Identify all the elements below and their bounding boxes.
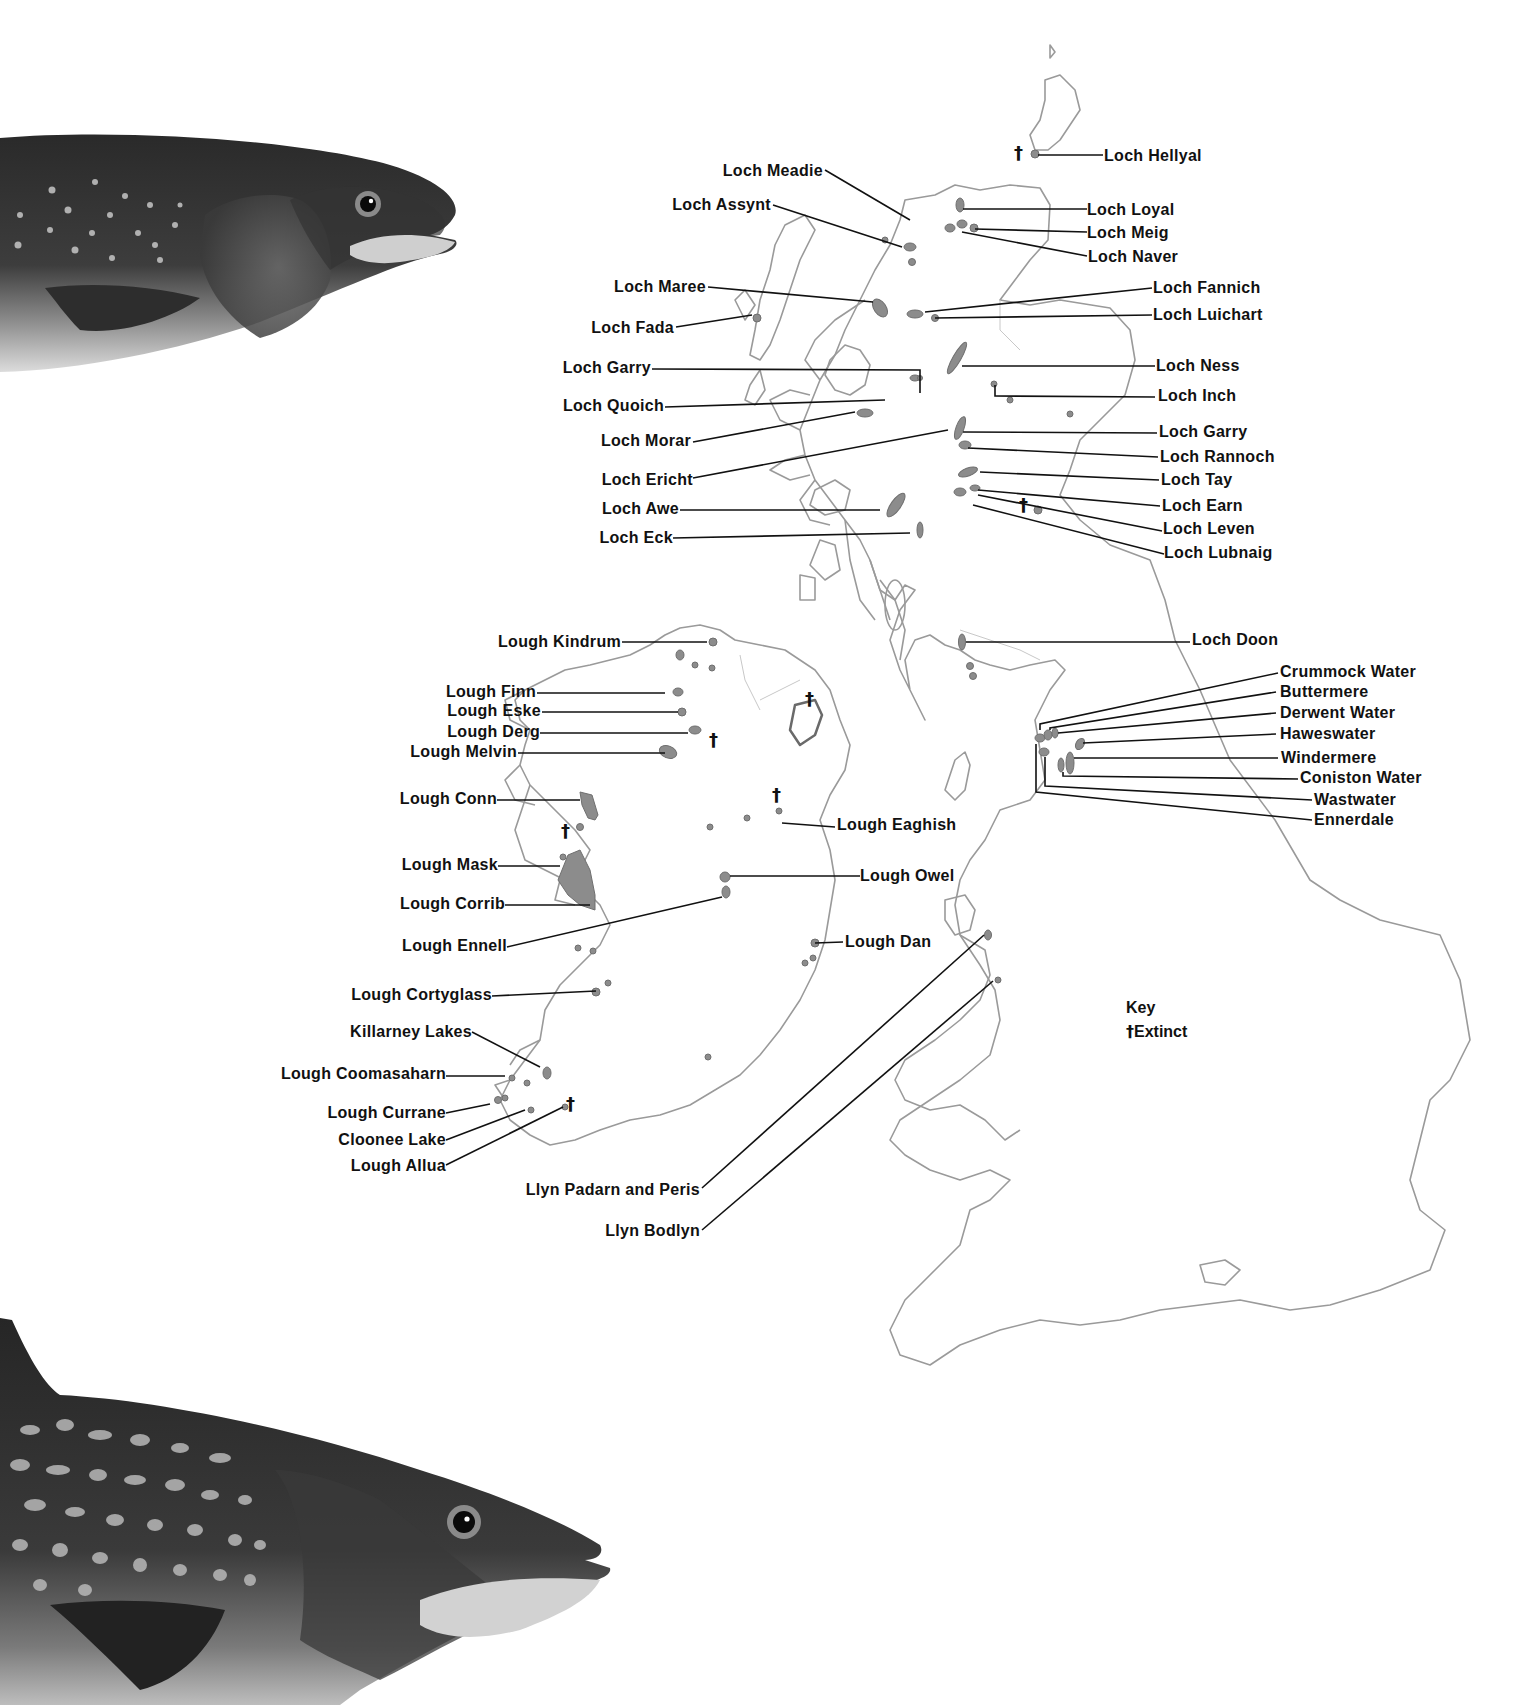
label-llyn-bodlyn: Llyn Bodlyn bbox=[605, 1222, 700, 1240]
label-loch-doon: Loch Doon bbox=[1192, 631, 1278, 649]
label-loch-garry-east: Loch Garry bbox=[1159, 423, 1247, 441]
label-lough-corrib: Lough Corrib bbox=[400, 895, 505, 913]
label-lough-mask: Lough Mask bbox=[402, 856, 498, 874]
extinct-marker: † bbox=[566, 1095, 575, 1113]
extinct-marker: † bbox=[1019, 496, 1028, 514]
label-llyn-padarn-and-peris: Llyn Padarn and Peris bbox=[526, 1181, 700, 1199]
label-haweswater: Haweswater bbox=[1280, 725, 1376, 743]
label-loch-quoich: Loch Quoich bbox=[563, 397, 664, 415]
label-loch-naver: Loch Naver bbox=[1088, 248, 1178, 266]
char-distribution-map-page: † † † † † † † Loch Hellyal Loch Loyal Lo… bbox=[0, 0, 1516, 1705]
label-lough-conn: Lough Conn bbox=[400, 790, 497, 808]
label-loch-fada: Loch Fada bbox=[591, 319, 674, 337]
label-loch-leven: Loch Leven bbox=[1163, 520, 1255, 538]
label-loch-lubnaig: Loch Lubnaig bbox=[1164, 544, 1272, 562]
british-isles-map bbox=[0, 0, 1516, 1705]
label-killarney-lakes: Killarney Lakes bbox=[350, 1023, 472, 1041]
label-loch-assynt: Loch Assynt bbox=[672, 196, 771, 214]
label-lough-allua: Lough Allua bbox=[351, 1157, 446, 1175]
label-loch-ericht: Loch Ericht bbox=[602, 471, 693, 489]
label-wastwater: Wastwater bbox=[1314, 791, 1396, 809]
key-extinct-row: †Extinct bbox=[1126, 1020, 1187, 1044]
label-loch-awe: Loch Awe bbox=[602, 500, 679, 518]
label-loch-fannich: Loch Fannich bbox=[1153, 279, 1261, 297]
extinct-marker: † bbox=[561, 822, 570, 840]
extinct-marker: † bbox=[772, 786, 781, 804]
label-cloonee-lake: Cloonee Lake bbox=[338, 1131, 446, 1149]
label-loch-luichart: Loch Luichart bbox=[1153, 306, 1263, 324]
label-loch-ness: Loch Ness bbox=[1156, 357, 1240, 375]
label-lough-kindrum: Lough Kindrum bbox=[498, 633, 621, 651]
label-lough-owel: Lough Owel bbox=[860, 867, 955, 885]
label-loch-eck: Loch Eck bbox=[599, 529, 673, 547]
label-windermere: Windermere bbox=[1281, 749, 1376, 767]
label-loch-garry-west: Loch Garry bbox=[563, 359, 651, 377]
label-lough-derg: Lough Derg bbox=[447, 723, 540, 741]
label-loch-inch: Loch Inch bbox=[1158, 387, 1236, 405]
label-lough-eaghish: Lough Eaghish bbox=[837, 816, 956, 834]
label-ennerdale: Ennerdale bbox=[1314, 811, 1394, 829]
label-lough-currane: Lough Currane bbox=[327, 1104, 446, 1122]
label-loch-earn: Loch Earn bbox=[1162, 497, 1243, 515]
label-lough-finn: Lough Finn bbox=[446, 683, 536, 701]
label-loch-morar: Loch Morar bbox=[601, 432, 691, 450]
label-lough-coomasaharn: Lough Coomasaharn bbox=[281, 1065, 446, 1083]
label-loch-loyal: Loch Loyal bbox=[1087, 201, 1174, 219]
label-lough-dan: Lough Dan bbox=[845, 933, 931, 951]
map-key: Key †Extinct bbox=[1126, 996, 1187, 1044]
extinct-marker: † bbox=[805, 690, 814, 708]
key-heading: Key bbox=[1126, 996, 1187, 1020]
label-coniston-water: Coniston Water bbox=[1300, 769, 1422, 787]
key-extinct-label: Extinct bbox=[1134, 1023, 1187, 1040]
label-loch-rannoch: Loch Rannoch bbox=[1160, 448, 1275, 466]
label-derwent-water: Derwent Water bbox=[1280, 704, 1395, 722]
dagger-icon: † bbox=[1126, 1022, 1134, 1041]
label-loch-meadie: Loch Meadie bbox=[723, 162, 823, 180]
label-loch-meig: Loch Meig bbox=[1087, 224, 1169, 242]
label-lough-ennell: Lough Ennell bbox=[402, 937, 507, 955]
extinct-marker: † bbox=[709, 731, 718, 749]
label-loch-tay: Loch Tay bbox=[1161, 471, 1232, 489]
label-lough-eske: Lough Eske bbox=[447, 702, 541, 720]
label-loch-maree: Loch Maree bbox=[614, 278, 706, 296]
label-lough-melvin: Lough Melvin bbox=[410, 743, 517, 761]
label-loch-hellyal: Loch Hellyal bbox=[1104, 147, 1202, 165]
extinct-marker: † bbox=[1014, 144, 1023, 162]
label-crummock-water: Crummock Water bbox=[1280, 663, 1416, 681]
label-lough-cortyglass: Lough Cortyglass bbox=[351, 986, 492, 1004]
label-buttermere: Buttermere bbox=[1280, 683, 1368, 701]
